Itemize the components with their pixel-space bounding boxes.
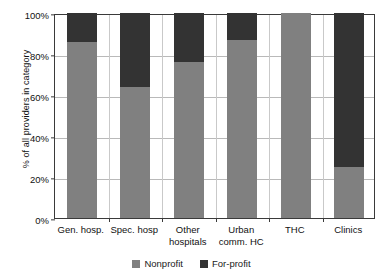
bar-segment-nonprofit[interactable]	[227, 40, 257, 218]
legend-item-for-profit[interactable]: For-profit	[200, 258, 251, 269]
y-gridline	[55, 179, 374, 180]
x-tick-label-4: Urban comm. HC	[215, 224, 269, 247]
bar-1[interactable]	[67, 13, 97, 218]
x-tick-label-6: Clinics	[322, 224, 376, 236]
x-tick-label-5: THC	[268, 224, 322, 236]
y-tick-label: 80%	[30, 51, 55, 62]
bar-segment-nonprofit[interactable]	[174, 62, 204, 218]
bar-5[interactable]	[281, 13, 311, 218]
x-gridline	[323, 15, 324, 218]
y-gridline	[55, 97, 374, 98]
x-gridline	[109, 15, 110, 218]
bar-segment-nonprofit[interactable]	[67, 42, 97, 218]
bar-segment-nonprofit[interactable]	[120, 87, 150, 218]
bar-segment-nonprofit[interactable]	[281, 13, 311, 218]
bar-segment-for-profit[interactable]	[67, 13, 97, 42]
x-gridline	[162, 15, 163, 218]
legend-item-nonprofit[interactable]: Nonprofit	[132, 258, 183, 269]
x-tick-mark	[216, 218, 217, 222]
legend-label: For-profit	[212, 258, 251, 269]
x-tick-mark	[162, 218, 163, 222]
legend-label: Nonprofit	[144, 258, 183, 269]
bar-segment-nonprofit[interactable]	[334, 167, 364, 218]
stacked-bar-chart: % of all providers in category 0%20%40%6…	[0, 0, 383, 279]
y-tick-label: 20%	[30, 174, 55, 185]
x-tick-mark	[269, 218, 270, 222]
bar-6[interactable]	[334, 13, 364, 218]
bar-4[interactable]	[227, 13, 257, 218]
x-tick-label-1: Gen. hosp.	[54, 224, 108, 236]
x-tick-label-3: Other hospitals	[161, 224, 215, 247]
x-tick-label-2: Spec. hosp	[108, 224, 162, 236]
y-tick-label: 0%	[35, 215, 55, 226]
plot-area: 0%20%40%60%80%100%	[54, 14, 375, 219]
bar-segment-for-profit[interactable]	[120, 13, 150, 87]
x-tick-mark	[323, 218, 324, 222]
chart-legend: NonprofitFor-profit	[0, 258, 383, 269]
nonprofit-swatch	[132, 260, 140, 268]
bar-segment-for-profit[interactable]	[334, 13, 364, 167]
y-tick-label: 100%	[25, 10, 55, 21]
y-gridline	[55, 138, 374, 139]
x-gridline	[269, 15, 270, 218]
bar-2[interactable]	[120, 13, 150, 218]
y-gridline	[55, 56, 374, 57]
bar-segment-for-profit[interactable]	[174, 13, 204, 62]
y-tick-label: 60%	[30, 92, 55, 103]
y-tick-label: 40%	[30, 133, 55, 144]
x-gridline	[216, 15, 217, 218]
x-tick-mark	[109, 218, 110, 222]
bar-segment-for-profit[interactable]	[227, 13, 257, 40]
forprofit-swatch	[200, 260, 208, 268]
bar-3[interactable]	[174, 13, 204, 218]
